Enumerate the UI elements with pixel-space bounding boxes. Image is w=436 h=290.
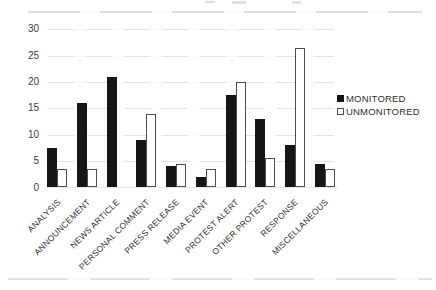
bar-unmonitored-personal-comment	[146, 114, 156, 188]
scan-artifact-top-line	[28, 11, 422, 13]
bar-unmonitored-response	[295, 48, 305, 188]
gridline-30	[48, 29, 334, 30]
scan-artifact-speck	[232, 1, 246, 4]
bar-monitored-protest-alert	[226, 95, 236, 187]
gridline-25	[48, 56, 334, 57]
legend-item-monitored: MONITORED	[337, 93, 420, 104]
y-axis-tick-label: 10	[0, 129, 39, 141]
bar-monitored-media-event	[196, 177, 206, 188]
y-axis-tick-label: 5	[0, 155, 39, 167]
scan-artifact-bottom-line	[8, 278, 432, 280]
gridline-15	[48, 108, 334, 109]
x-axis-label-protest-alert: PROTEST ALERT	[183, 197, 241, 255]
x-axis-label-other-protest: OTHER PROTEST	[210, 197, 270, 257]
unmonitored-swatch-icon	[337, 108, 344, 115]
bar-unmonitored-press-release	[176, 164, 186, 188]
bar-monitored-personal-comment	[136, 140, 146, 188]
x-axis-label-press-release: PRESS RELEASE	[122, 197, 181, 256]
y-axis-tick-label: 15	[0, 102, 39, 114]
y-axis-tick-label: 30	[0, 23, 39, 35]
gridline-10	[48, 135, 334, 136]
bar-unmonitored-protest-alert	[236, 82, 246, 188]
bar-monitored-other-protest	[255, 119, 265, 188]
legend-label-unmonitored: UNMONITORED	[346, 106, 420, 117]
legend: MONITORED UNMONITORED	[337, 93, 420, 119]
bar-unmonitored-announcement	[87, 169, 97, 187]
y-axis-tick-label: 25	[0, 50, 39, 62]
bar-unmonitored-other-protest	[265, 158, 275, 187]
legend-label-monitored: MONITORED	[346, 93, 406, 104]
bar-monitored-analysis	[47, 148, 57, 188]
gridline-20	[48, 82, 334, 83]
bar-monitored-press-release	[166, 166, 176, 187]
y-axis-tick-label: 0	[0, 182, 39, 194]
y-axis-tick-label: 20	[0, 76, 39, 88]
bar-monitored-response	[285, 145, 295, 187]
bar-monitored-announcement	[77, 103, 87, 187]
x-axis-label-miscellaneous: MISCELLANEOUS	[270, 197, 330, 257]
scan-artifact-speck	[205, 1, 215, 3]
scan-artifact-speck	[292, 1, 301, 4]
bar-monitored-news-article	[107, 77, 117, 188]
bar-unmonitored-miscellaneous	[325, 169, 335, 187]
monitored-swatch-icon	[337, 95, 344, 102]
bar-chart: MONITORED UNMONITORED 051015202530ANALYS…	[0, 0, 436, 290]
legend-item-unmonitored: UNMONITORED	[337, 106, 420, 117]
bar-unmonitored-analysis	[57, 169, 67, 187]
bar-unmonitored-media-event	[206, 169, 216, 187]
bar-monitored-miscellaneous	[315, 164, 325, 188]
